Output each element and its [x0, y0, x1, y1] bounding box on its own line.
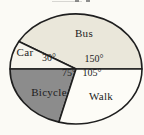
pie-chart-figure: Bus 150° Car 30° Bicycle 75° Walk 105°: [0, 0, 144, 135]
slice-label-car: Car: [17, 47, 34, 58]
slice-label-bus: Bus: [75, 28, 93, 39]
slice-angle-walk: 105°: [83, 68, 102, 78]
slice-angle-bus: 150°: [85, 54, 104, 64]
slice-angle-bicycle: 75°: [62, 68, 76, 78]
slice-angle-car: 30°: [42, 53, 56, 63]
slice-label-bicycle: Bicycle: [31, 87, 67, 98]
slice-label-walk: Walk: [89, 91, 113, 102]
